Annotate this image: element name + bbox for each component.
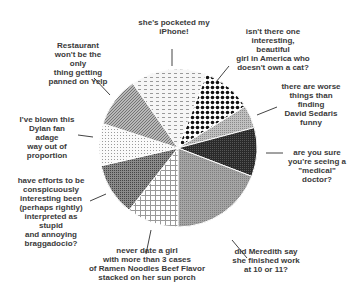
label-iphone: she's pocketed my iPhone! bbox=[126, 18, 222, 36]
label-braggadocio: have efforts to be conspicuously interes… bbox=[12, 176, 90, 248]
pie-slices bbox=[99, 69, 257, 227]
label-sedaris: there are worse things than finding Davi… bbox=[279, 82, 343, 127]
label-yelp: Restaurant won't be the only thing getti… bbox=[46, 41, 110, 86]
label-dylan: I've blown this Dylan fan adage way out … bbox=[18, 115, 76, 160]
label-medical: are you sure you're seeing a "medical" d… bbox=[285, 148, 349, 184]
leader-line-dylan bbox=[78, 135, 93, 137]
leader-line-sedaris bbox=[257, 107, 277, 115]
label-meredith: did Meredith say she finished work at 10… bbox=[226, 247, 306, 274]
leader-line-braggadocio bbox=[90, 194, 106, 201]
label-cat: isn't there one interesting, beautiful g… bbox=[234, 27, 312, 72]
label-ramen: never date a girl with more than 3 cases… bbox=[82, 246, 212, 282]
leader-line-cat bbox=[216, 66, 229, 82]
